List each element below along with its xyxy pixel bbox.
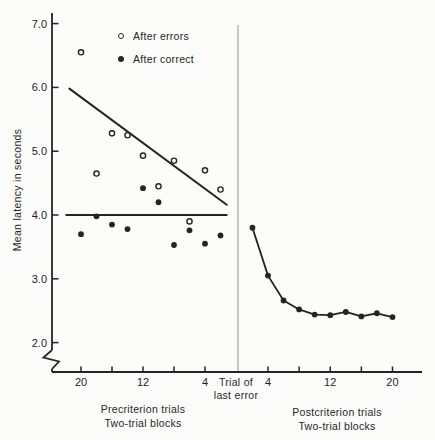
data-point-after-errors	[94, 171, 99, 176]
legend-item-after-correct: After correct	[118, 47, 194, 70]
data-point-postcriterion	[312, 312, 318, 318]
data-point-after-correct	[125, 226, 131, 232]
y-axis-break-icon	[44, 350, 60, 369]
data-point-after-errors	[109, 131, 114, 136]
precriterion-x-tick-label: 20	[75, 376, 87, 388]
legend: After errors After correct	[118, 24, 194, 70]
data-point-after-errors	[140, 153, 145, 158]
data-point-after-errors	[171, 158, 176, 163]
trial-of-last-error-line1: Trial of	[191, 376, 281, 389]
data-point-after-correct	[156, 199, 162, 205]
fit-line-after-errors	[69, 89, 226, 205]
y-axis-title: Mean latency in seconds	[11, 129, 23, 251]
trial-of-last-error-line2: last error	[191, 389, 281, 402]
postcriterion-x-tick-label: 12	[324, 376, 336, 388]
trial-of-last-error-label: Trial of last error	[191, 376, 281, 402]
latency-figure: 7.06.05.04.03.02.02012441220 Mean latenc…	[0, 0, 435, 440]
data-point-postcriterion	[343, 309, 349, 315]
legend-label-after-correct: After correct	[133, 53, 194, 65]
data-point-after-correct	[78, 231, 84, 237]
data-point-after-correct	[109, 222, 115, 228]
postcriterion-line	[252, 228, 392, 317]
y-tick-label: 6.0	[32, 81, 47, 93]
data-point-after-correct	[140, 185, 146, 191]
data-point-postcriterion	[358, 314, 364, 320]
legend-item-after-errors: After errors	[118, 24, 194, 47]
data-point-after-correct	[187, 227, 193, 233]
data-point-after-errors	[187, 219, 192, 224]
postcriterion-x-tick-label: 20	[386, 376, 398, 388]
legend-label-after-errors: After errors	[133, 30, 189, 42]
data-point-postcriterion	[265, 273, 271, 279]
chart-canvas: 7.06.05.04.03.02.02012441220	[0, 0, 435, 440]
y-tick-label: 5.0	[32, 145, 47, 157]
data-point-after-correct	[202, 241, 208, 247]
precriterion-caption-line2: Two-trial blocks	[63, 416, 223, 430]
data-point-after-errors	[156, 184, 161, 189]
data-point-postcriterion	[281, 298, 287, 304]
open-circle-icon	[118, 33, 124, 39]
data-point-after-correct	[171, 242, 177, 248]
postcriterion-caption-line2: Two-trial blocks	[257, 419, 417, 433]
data-point-after-errors	[78, 50, 83, 55]
precriterion-caption: Precriterion trials Two-trial blocks	[63, 402, 223, 430]
postcriterion-caption-line1: Postcriterion trials	[257, 405, 417, 419]
data-point-postcriterion	[327, 312, 333, 318]
data-point-after-correct	[94, 213, 100, 219]
data-point-postcriterion	[296, 307, 302, 313]
filled-circle-icon	[118, 56, 124, 62]
data-point-postcriterion	[250, 225, 256, 231]
data-point-postcriterion	[374, 310, 380, 316]
precriterion-x-tick-label: 12	[137, 376, 149, 388]
data-point-after-errors	[202, 168, 207, 173]
y-tick-label: 7.0	[32, 18, 47, 30]
postcriterion-caption: Postcriterion trials Two-trial blocks	[257, 405, 417, 433]
data-point-after-errors	[125, 133, 130, 138]
data-point-after-errors	[218, 187, 223, 192]
y-tick-label: 3.0	[32, 273, 47, 285]
y-tick-label: 2.0	[32, 337, 47, 349]
y-tick-label: 4.0	[32, 209, 47, 221]
data-point-postcriterion	[390, 314, 396, 320]
precriterion-caption-line1: Precriterion trials	[63, 402, 223, 416]
data-point-after-correct	[218, 233, 224, 239]
